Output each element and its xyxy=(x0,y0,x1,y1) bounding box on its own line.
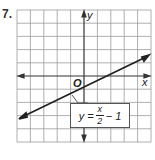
x-axis-label: x xyxy=(141,76,148,88)
coordinate-graph: y x O xyxy=(0,0,155,160)
equation-label: y = x 2 − 1 xyxy=(70,103,130,128)
callout-pointer xyxy=(72,95,88,103)
fraction: x 2 xyxy=(96,105,104,126)
y-axis-label: y xyxy=(86,9,94,21)
origin-label: O xyxy=(73,77,82,89)
